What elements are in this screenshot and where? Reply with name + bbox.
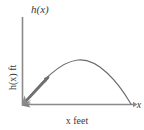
trajectory-figure: h(x) h(x) ft x feet x bbox=[0, 0, 144, 130]
launch-arrow-icon bbox=[22, 76, 50, 108]
y-axis-label: h(x) bbox=[31, 3, 49, 16]
y-axis-unit-label: h(x) ft bbox=[7, 65, 19, 90]
figure-canvas: h(x) h(x) ft x feet x bbox=[0, 0, 144, 130]
arrow-shaft bbox=[26, 78, 49, 102]
trajectory-curve bbox=[23, 60, 132, 105]
x-axis-label: x bbox=[136, 99, 142, 110]
x-axis-unit-label: x feet bbox=[66, 115, 89, 126]
